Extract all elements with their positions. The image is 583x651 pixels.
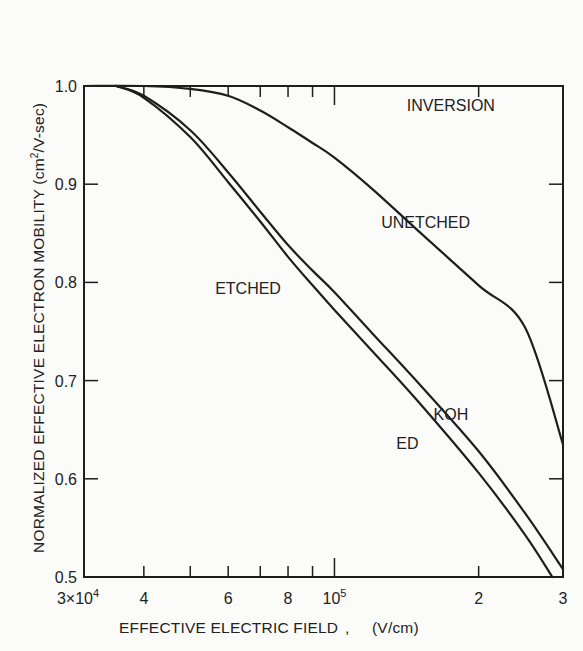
x-tick-label: 8: [284, 590, 293, 607]
label-etched: ETCHED: [215, 280, 281, 297]
curve-unetched: [84, 86, 563, 445]
x-tick-label: 105: [322, 587, 346, 607]
y-tick-label: 0.7: [55, 373, 77, 390]
plot-border: [84, 86, 563, 577]
x-axis-title: EFFECTIVE ELECTRIC FIELD,(V/cm): [119, 619, 419, 636]
y-tick-label: 0.9: [55, 176, 77, 193]
label-ed: ED: [396, 435, 418, 452]
y-tick-label: 0.6: [55, 471, 77, 488]
x-tick-label: 3×104: [57, 587, 99, 607]
curve-ed: [116, 86, 552, 577]
label-unetched: UNETCHED: [381, 214, 470, 231]
label-inversion: INVERSION: [407, 97, 495, 114]
y-tick-label: 1.0: [55, 78, 77, 95]
axis-ticks: 1.00.90.80.70.60.53×10446810523: [55, 78, 568, 607]
plot-frame: [84, 86, 563, 577]
mobility-vs-field-chart: 1.00.90.80.70.60.53×10446810523 INVERSIO…: [0, 0, 583, 651]
label-koh: KOH: [434, 406, 469, 423]
x-tick-label: 3: [559, 590, 568, 607]
y-tick-label: 0.8: [55, 274, 77, 291]
y-axis-title: NORMALIZED EFFECTIVE ELECTRON MOBILITY (…: [29, 103, 47, 553]
curve-labels: INVERSIONUNETCHEDETCHEDKOHED: [215, 97, 495, 453]
x-tick-label: 4: [139, 590, 148, 607]
x-tick-label: 6: [224, 590, 233, 607]
y-tick-label: 0.5: [55, 569, 77, 586]
data-curves: [84, 86, 563, 577]
x-tick-label: 2: [474, 590, 483, 607]
